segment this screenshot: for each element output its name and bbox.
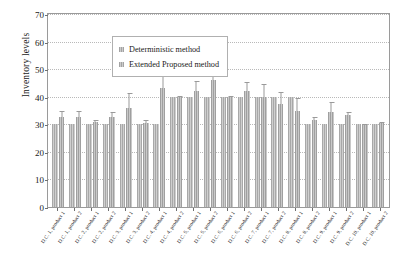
error-bar — [95, 120, 96, 122]
bar — [372, 124, 378, 207]
bar — [238, 97, 244, 207]
gridline: 0 — [48, 207, 389, 208]
bar — [120, 124, 126, 207]
bar — [143, 123, 149, 207]
y-axis-tick-label: 60 — [35, 38, 44, 48]
bar — [187, 97, 193, 207]
error-bar — [331, 102, 332, 112]
legend-item-deterministic: Deterministic method — [119, 45, 219, 54]
y-axis-tick-label: 50 — [35, 65, 44, 75]
bar — [271, 97, 277, 207]
x-axis-tick-mark — [329, 208, 330, 211]
bar — [194, 91, 200, 207]
y-axis-tick-label: 0 — [40, 203, 45, 213]
error-bar — [61, 111, 62, 117]
x-axis-tick-mark — [57, 208, 58, 211]
error-bar — [145, 120, 146, 123]
error-bar — [196, 81, 197, 91]
error-bar — [297, 98, 298, 112]
bar — [244, 91, 250, 207]
x-axis-tick-mark — [363, 208, 364, 211]
bar-group — [50, 14, 67, 207]
bar-group — [67, 14, 84, 207]
error-bar — [381, 122, 382, 124]
legend-swatch-icon — [119, 62, 124, 67]
bar — [288, 97, 294, 207]
bar — [137, 124, 143, 207]
y-axis-tick-label: 30 — [35, 120, 44, 130]
error-bar — [78, 111, 79, 117]
legend-swatch-icon — [119, 47, 124, 52]
bar-group — [336, 14, 353, 207]
error-bar — [280, 92, 281, 104]
y-axis-tick-label: 40 — [35, 93, 44, 103]
bar — [76, 117, 82, 207]
legend-label: Deterministic method — [129, 45, 200, 54]
y-axis-tick-mark — [45, 208, 48, 209]
x-axis-tick-mark — [74, 208, 75, 211]
x-axis-tick-mark — [159, 208, 160, 211]
plot-area: 010203040506070 Deterministic method Ext… — [47, 13, 390, 208]
bar — [103, 124, 109, 207]
inventory-levels-bar-chart: Inventory levels 010203040506070 Determi… — [0, 0, 407, 274]
error-bar — [246, 82, 247, 91]
y-axis-tick-label: 70 — [35, 10, 44, 20]
x-axis-tick-mark — [380, 208, 381, 211]
bar — [221, 97, 227, 207]
bar-group — [286, 14, 303, 207]
bar — [69, 124, 75, 207]
chart-legend: Deterministic method Extended Proposed m… — [112, 36, 228, 77]
bar-group — [235, 14, 252, 207]
bar — [379, 123, 385, 207]
bar — [170, 97, 176, 207]
bar — [86, 124, 92, 207]
bar — [339, 124, 345, 207]
bar-group — [84, 14, 101, 207]
bar — [153, 124, 159, 207]
bar — [345, 115, 351, 207]
x-axis-tick-mark — [142, 208, 143, 211]
bar — [227, 97, 233, 207]
x-axis-tick-mark — [176, 208, 177, 211]
bar — [278, 104, 284, 207]
bar-group — [252, 14, 269, 207]
x-axis-tick-mark — [261, 208, 262, 211]
bar — [177, 97, 183, 207]
bar-group — [370, 14, 387, 207]
error-bar — [129, 93, 130, 108]
bar — [362, 124, 368, 207]
x-axis-labels: D.C. 1, product 1D.C. 1, product 2D.C. 2… — [47, 210, 390, 272]
bar — [312, 120, 318, 207]
x-axis-tick-mark — [108, 208, 109, 211]
bar — [59, 117, 65, 207]
bar — [255, 97, 261, 207]
x-axis-tick-label: D.C. 10, product 2 — [327, 210, 389, 274]
bar — [109, 117, 115, 207]
x-axis-tick-mark — [125, 208, 126, 211]
error-bar — [230, 96, 231, 97]
error-bar — [179, 96, 180, 97]
bar — [126, 108, 132, 207]
bar — [160, 88, 166, 207]
bar-group — [353, 14, 370, 207]
legend-item-extended-proposed: Extended Proposed method — [119, 60, 219, 69]
bar — [356, 124, 362, 207]
legend-label: Extended Proposed method — [129, 60, 219, 69]
x-axis-tick-mark — [244, 208, 245, 211]
bar — [93, 122, 99, 207]
bar-group — [269, 14, 286, 207]
bar-group — [320, 14, 337, 207]
y-axis-title: Inventory levels — [21, 5, 31, 125]
bar-group — [303, 14, 320, 207]
bar — [261, 97, 267, 207]
error-bar — [112, 112, 113, 118]
bar — [305, 124, 311, 207]
bar — [322, 124, 328, 207]
bar — [52, 124, 58, 207]
error-bar — [314, 117, 315, 120]
x-axis-tick-mark — [346, 208, 347, 211]
x-axis-tick-mark — [278, 208, 279, 211]
x-axis-tick-mark — [91, 208, 92, 211]
bar — [204, 97, 210, 207]
error-bar — [348, 112, 349, 115]
